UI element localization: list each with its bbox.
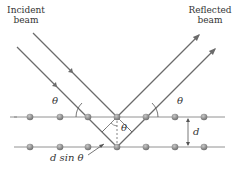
atom [172, 144, 179, 151]
reflected-beams [117, 35, 215, 147]
reflected-ray-top [117, 35, 199, 117]
atom [27, 114, 34, 121]
atom [143, 114, 150, 121]
atom [57, 144, 64, 151]
atom [85, 144, 92, 151]
incident-beams [17, 33, 117, 147]
atom [114, 114, 121, 121]
atom [143, 144, 150, 151]
theta-label-left: θ [52, 95, 58, 106]
atom [85, 114, 92, 121]
spacing-indicator [186, 118, 190, 146]
atom [201, 144, 208, 151]
bragg-diffraction-diagram [0, 0, 238, 173]
theta-label-center: θ [121, 122, 127, 133]
theta-label-right: θ [177, 95, 183, 106]
theta-arc-left [76, 103, 82, 117]
atom [114, 144, 121, 151]
atom [172, 114, 179, 121]
atom [57, 114, 64, 121]
atom [201, 114, 208, 121]
theta-arc-right [152, 103, 158, 117]
atom [27, 144, 34, 151]
path-difference-label: d sin θ [50, 152, 84, 163]
spacing-label: d [193, 126, 199, 137]
